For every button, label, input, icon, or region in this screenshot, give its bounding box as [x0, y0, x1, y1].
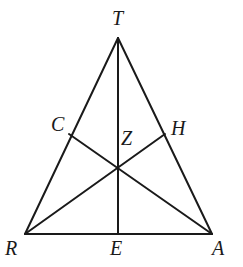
geometry-figure: T R A C H E Z: [0, 0, 243, 267]
point-label-C: C: [51, 114, 64, 134]
point-label-R: R: [5, 238, 17, 258]
point-label-T: T: [112, 8, 123, 28]
point-label-Z: Z: [121, 128, 132, 148]
median-AC: [69, 134, 212, 234]
point-label-H: H: [171, 118, 185, 138]
point-label-A: A: [212, 238, 224, 258]
median-RH: [25, 134, 165, 234]
point-label-E: E: [110, 238, 122, 258]
